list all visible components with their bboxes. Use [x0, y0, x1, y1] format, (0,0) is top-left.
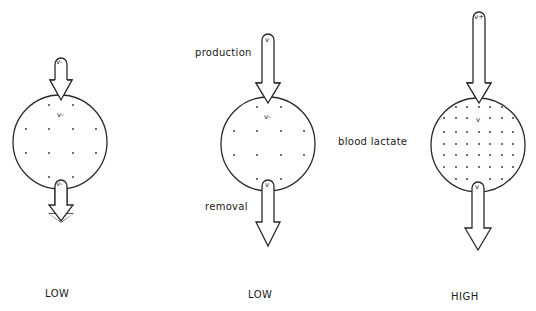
- middle-outflow-label: v: [265, 181, 269, 189]
- right-outflow-arrow: [465, 182, 491, 250]
- left-center-label: v-: [57, 111, 63, 119]
- right-panel: [431, 12, 525, 250]
- left-inflow-label: v-: [56, 58, 62, 66]
- middle-inflow-label: v: [265, 36, 269, 44]
- blood-lactate-label: blood lactate: [338, 136, 407, 147]
- middle-panel: [221, 34, 315, 246]
- right-level-label: HIGH: [451, 291, 479, 302]
- middle-pool-circle: [221, 97, 315, 191]
- left-panel: [13, 58, 107, 222]
- middle-level-label: LOW: [248, 289, 272, 300]
- right-center-label: v: [476, 116, 480, 124]
- right-pool-circle: [431, 98, 525, 192]
- production-label: production: [195, 47, 252, 58]
- middle-center-label: v-: [264, 113, 270, 121]
- left-outflow-label: v-: [56, 180, 62, 188]
- right-inflow-label: v+: [474, 13, 484, 21]
- removal-label: removal: [205, 201, 248, 212]
- left-pool-circle: [13, 95, 107, 189]
- left-level-label: LOW: [45, 288, 69, 299]
- right-outflow-label: v: [475, 183, 479, 191]
- lactate-diagram: v- v- v- v v- v v+ v v production remova…: [0, 0, 536, 311]
